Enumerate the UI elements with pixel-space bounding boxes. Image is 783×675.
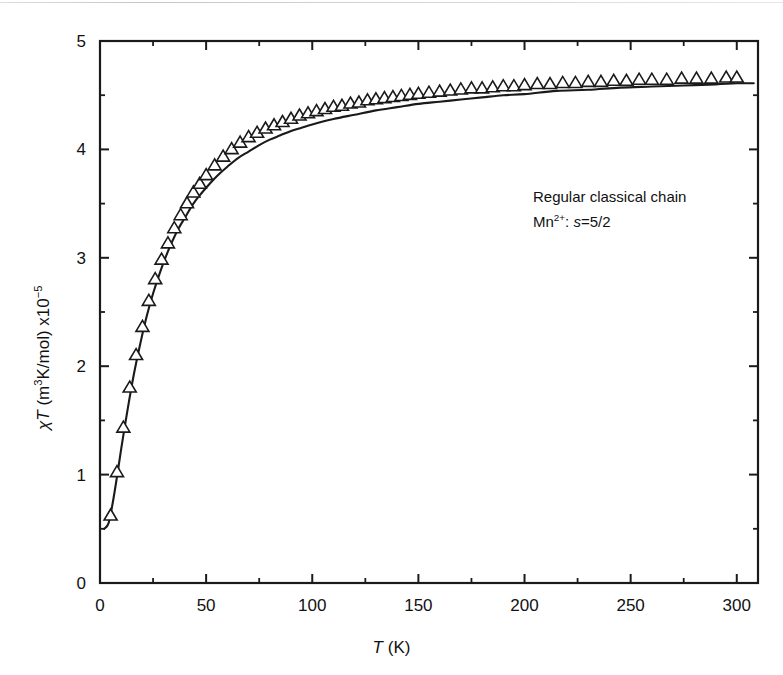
series-classical-chain-fit xyxy=(104,83,754,529)
annotation-spin-value: =5/2 xyxy=(581,213,611,230)
axis-tick-labels: 050100150200250300012345 xyxy=(77,32,751,615)
data-point-marker xyxy=(110,466,123,477)
data-point-marker xyxy=(104,509,117,520)
data-point-marker xyxy=(543,78,556,89)
annotation-ion-spin: Mn2+: s=5/2 xyxy=(533,213,611,230)
y-tick-label: 2 xyxy=(77,357,86,376)
x-tick-label: 0 xyxy=(95,596,104,615)
data-point-marker xyxy=(730,71,743,82)
data-point-marker xyxy=(181,197,194,208)
data-point-marker xyxy=(556,76,569,87)
y-axis-scale-exponent: −5 xyxy=(32,285,44,298)
annotation-spin-symbol: s xyxy=(573,213,581,230)
y-tick-label: 5 xyxy=(77,32,86,51)
y-axis-unit-pre: (m xyxy=(34,386,53,411)
series-experimental-data xyxy=(104,71,743,520)
data-point-marker xyxy=(582,75,595,86)
y-axis-symbol: χT xyxy=(34,410,53,430)
plot-area: 050100150200250300012345 xyxy=(0,0,783,675)
data-point-marker xyxy=(518,79,531,90)
figure-canvas: 050100150200250300012345 χT (m3K/mol) x1… xyxy=(0,0,783,675)
data-point-marker xyxy=(174,209,187,220)
y-tick-label: 4 xyxy=(77,140,86,159)
plot-frame xyxy=(100,41,758,583)
data-point-marker xyxy=(705,72,718,83)
annotation-model-label: Regular classical chain xyxy=(533,188,686,205)
data-point-marker xyxy=(136,320,149,331)
x-tick-label: 300 xyxy=(723,596,751,615)
data-point-marker xyxy=(645,73,658,84)
y-tick-label: 0 xyxy=(77,574,86,593)
annotation-ion-charge: 2+ xyxy=(554,212,565,223)
x-tick-label: 50 xyxy=(197,596,216,615)
x-axis-symbol: T xyxy=(373,638,383,657)
data-point-marker xyxy=(690,72,703,83)
x-tick-label: 200 xyxy=(510,596,538,615)
data-point-marker xyxy=(675,72,688,83)
x-tick-label: 150 xyxy=(404,596,432,615)
y-tick-label: 3 xyxy=(77,249,86,268)
data-point-marker xyxy=(117,421,130,432)
data-point-marker xyxy=(620,74,633,85)
y-axis-unit-post: K/mol) x10 xyxy=(34,298,53,379)
y-tick-label: 1 xyxy=(77,466,86,485)
x-axis-title: T (K) xyxy=(0,638,783,658)
y-axis-title: χT (m3K/mol) x10−5 xyxy=(34,285,54,430)
data-point-marker xyxy=(594,75,607,86)
x-tick-label: 100 xyxy=(298,596,326,615)
data-point-marker xyxy=(130,349,143,360)
data-point-marker xyxy=(633,73,646,84)
y-axis-unit-exponent: 3 xyxy=(32,380,44,386)
x-axis-unit: (K) xyxy=(383,638,410,657)
data-point-marker xyxy=(660,73,673,84)
data-point-marker xyxy=(607,74,620,85)
data-point-marker xyxy=(123,381,136,392)
data-point-marker xyxy=(531,78,544,89)
annotation-ion-symbol: Mn xyxy=(533,213,554,230)
data-point-marker xyxy=(569,76,582,87)
x-tick-label: 250 xyxy=(616,596,644,615)
fit-curve xyxy=(104,83,754,529)
axes-frame xyxy=(100,41,758,583)
axis-ticks xyxy=(100,41,758,583)
